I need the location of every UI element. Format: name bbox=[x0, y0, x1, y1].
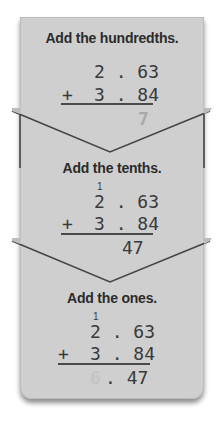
addend-top: 2 . 63 bbox=[90, 321, 155, 342]
result-hundredths-digit: 7 bbox=[138, 108, 149, 129]
step-title-ones: Add the ones. bbox=[20, 290, 204, 306]
chevron-arrow-divider-1 bbox=[0, 108, 218, 168]
addend-bottom: 3 . 84 bbox=[94, 213, 159, 234]
plus-sign: + bbox=[62, 84, 73, 105]
sum-line bbox=[61, 233, 153, 235]
sum-line bbox=[61, 103, 153, 105]
sum-line bbox=[58, 363, 150, 365]
step-title-tenths: Add the tenths. bbox=[20, 160, 204, 176]
step-title-hundredths: Add the hundredths. bbox=[20, 30, 204, 46]
addend-bottom: 3 . 84 bbox=[94, 84, 159, 105]
plus-sign: + bbox=[62, 213, 73, 234]
addend-bottom: 3 . 84 bbox=[90, 343, 155, 364]
plus-sign: + bbox=[58, 343, 69, 364]
result-decimal-digits: . 47 bbox=[105, 367, 148, 388]
addend-top: 2 . 63 bbox=[94, 61, 159, 82]
result-ones-digit: 6 bbox=[90, 367, 101, 388]
chevron-arrow-divider-2 bbox=[0, 238, 218, 298]
addend-top: 2 . 63 bbox=[94, 191, 159, 212]
result-tenths-digits: 47 bbox=[122, 237, 144, 258]
